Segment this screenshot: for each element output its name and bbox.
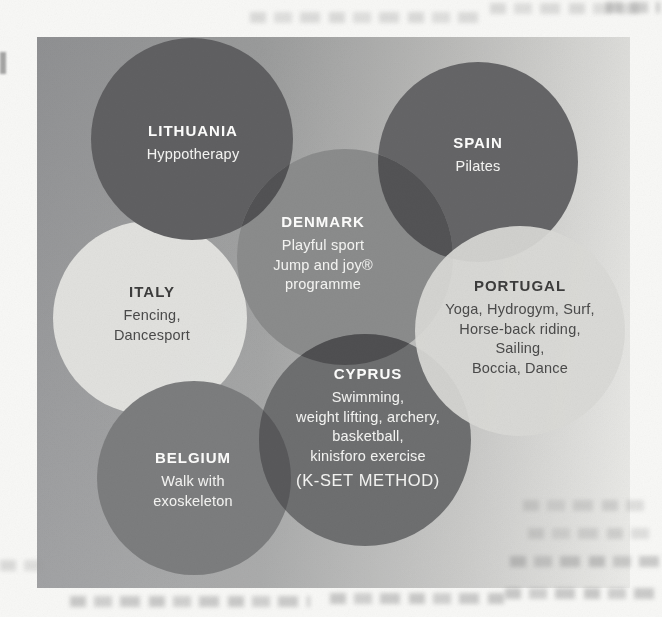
bleed-text-fragment	[606, 2, 660, 13]
circle-belgium	[97, 381, 291, 575]
bleed-text-fragment	[250, 12, 480, 23]
scanned-book-page: { "figure": { "description": "Overlappin…	[0, 0, 662, 617]
venn-diagram-panel: LITHUANIA Hyppotherapy SPAIN Pilates DEN…	[37, 37, 630, 588]
bleed-text-fragment	[490, 3, 640, 14]
bleed-text-fragment	[70, 596, 310, 607]
bleed-text-fragment	[505, 588, 660, 599]
circles-graphic	[37, 37, 630, 588]
page-edge-mark	[0, 52, 6, 74]
circle-portugal	[415, 226, 625, 436]
bleed-text-fragment	[330, 593, 505, 604]
